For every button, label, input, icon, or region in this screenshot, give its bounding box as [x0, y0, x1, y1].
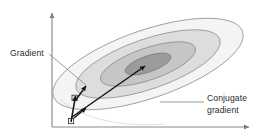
gradient-label: Gradient: [10, 48, 44, 58]
conjugate-gradient-label-line2: gradient: [207, 105, 239, 115]
diagram-canvas: Gradient Conjugate gradient: [0, 0, 262, 136]
conjugate-gradient-label-line1: Conjugate: [207, 93, 247, 103]
